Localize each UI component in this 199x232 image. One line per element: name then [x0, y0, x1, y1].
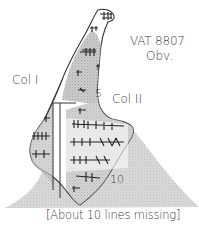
column-2-label: Col II [112, 93, 142, 105]
line-marker-5: 5 [95, 88, 102, 99]
side-label: Obv. [146, 50, 173, 62]
column-1-label: Col I [12, 74, 38, 86]
surface-left [30, 103, 53, 185]
line-marker-10: 10 [110, 174, 124, 185]
tablet-id-label: VAT 8807 [130, 35, 185, 47]
missing-lines-note: [About 10 lines missing] [46, 210, 180, 222]
